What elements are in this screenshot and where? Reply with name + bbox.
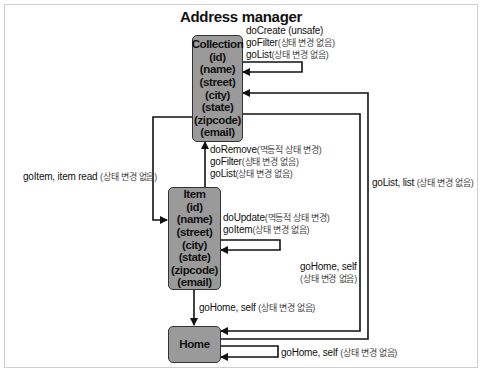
item-field-street: (street): [177, 226, 213, 239]
edge-label-collection-to-home: goHome, self (상태 변경 없음): [300, 261, 356, 285]
collection-field-name: (name): [200, 63, 235, 76]
edge-label-item-self: doUpdate(멱등적 상태 변경) goItem(상태 변경 없음): [223, 212, 330, 236]
item-field-zipcode: (zipcode): [171, 264, 218, 277]
collection-field-zipcode: (zipcode): [194, 114, 241, 127]
item-field-id: (id): [186, 201, 202, 214]
edge-label-home-self: goHome, self (상태 변경 없음): [281, 347, 397, 359]
edge-label-item-to-collection: doRemove(멱등적 상태 변경) goFilter(상태 변경 없음) g…: [210, 144, 322, 180]
edge-label-home-to-collection: goList, list (상태 변경 없음): [372, 177, 474, 189]
edge-label-collection-to-item: goItem, item read (상태 변경 없음): [23, 171, 157, 183]
collection-field-street: (street): [200, 76, 236, 89]
item-field-email: (email): [177, 276, 211, 289]
collection-label: Collection: [192, 38, 244, 51]
collection-node: Collection (id) (name) (street) (city) (…: [192, 35, 243, 142]
collection-field-id: (id): [209, 51, 225, 64]
item-field-name: (name): [177, 213, 212, 226]
edge-label-collection-self: doCreate (unsafe) goFilter(상태 변경 없음) goL…: [246, 25, 335, 61]
collection-field-city: (city): [205, 89, 230, 102]
item-field-state: (state): [179, 251, 211, 264]
home-label: Home: [179, 338, 209, 351]
home-node: Home: [168, 326, 221, 363]
collection-field-email: (email): [200, 126, 234, 139]
item-label: Item: [183, 188, 205, 201]
item-field-city: (city): [182, 239, 207, 252]
edge-label-item-to-home: goHome, self (상태 변경 없음): [199, 302, 315, 314]
collection-field-state: (state): [202, 101, 234, 114]
item-node: Item (id) (name) (street) (city) (state)…: [168, 187, 221, 290]
